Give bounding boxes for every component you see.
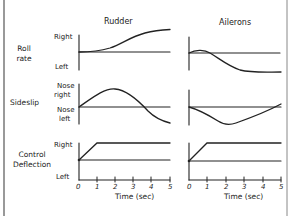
panel-ailerons-roll-rate xyxy=(189,37,281,72)
column-title-rudder: Rudder xyxy=(104,17,133,26)
x-tick-label: 4 xyxy=(261,183,265,191)
origin-dot xyxy=(188,160,191,163)
x-axis-label-ailerons: Time (sec) xyxy=(224,192,263,201)
row-label-control-line2: Deflection xyxy=(10,160,54,170)
panel-ailerons-sideslip xyxy=(189,90,281,125)
panel-ailerons-control xyxy=(189,143,281,182)
x-tick-label: 1 xyxy=(205,183,209,191)
x-axis-label-rudder: Time (sec) xyxy=(115,192,154,201)
x-tick-label: 2 xyxy=(224,183,228,191)
x-tick-label: 5 xyxy=(168,183,172,191)
y-label-roll-right: Right xyxy=(54,33,72,41)
y-label-nose-left-1: Nose xyxy=(57,106,74,114)
figure: Rudder Ailerons Roll rate Sideslip Contr… xyxy=(0,0,290,216)
origin-dot xyxy=(78,159,81,162)
x-tick-label: 2 xyxy=(113,183,117,191)
chart-canvas xyxy=(0,0,290,216)
y-label-control-left: Left xyxy=(56,173,69,181)
x-tick-label: 5 xyxy=(279,183,283,191)
y-label-control-right: Right xyxy=(54,141,72,149)
row-label-control-deflection: Control Deflection xyxy=(10,150,54,170)
column-title-ailerons: Ailerons xyxy=(219,18,251,27)
row-label-sideslip: Sideslip xyxy=(10,98,39,108)
row-label-control-line1: Control xyxy=(10,150,54,160)
x-tick-label: 0 xyxy=(187,183,191,191)
panel-rudder-sideslip xyxy=(79,84,170,124)
panel-rudder-roll-rate xyxy=(79,30,170,71)
x-tick-label: 3 xyxy=(242,183,246,191)
y-label-roll-left: Left xyxy=(55,63,68,71)
row-label-roll-rate: Roll rate xyxy=(14,44,34,64)
y-label-nose-right-2: right xyxy=(54,91,70,99)
x-tick-label: 1 xyxy=(95,183,99,191)
row-label-roll-line2: rate xyxy=(14,54,34,64)
y-label-nose-right-1: Nose xyxy=(57,82,74,90)
panel-rudder-control xyxy=(79,143,170,182)
x-tick-label: 4 xyxy=(149,183,153,191)
y-label-nose-left-2: left xyxy=(59,115,70,123)
row-label-roll-line1: Roll xyxy=(14,44,34,54)
x-tick-label: 0 xyxy=(76,183,80,191)
x-tick-label: 3 xyxy=(131,183,135,191)
